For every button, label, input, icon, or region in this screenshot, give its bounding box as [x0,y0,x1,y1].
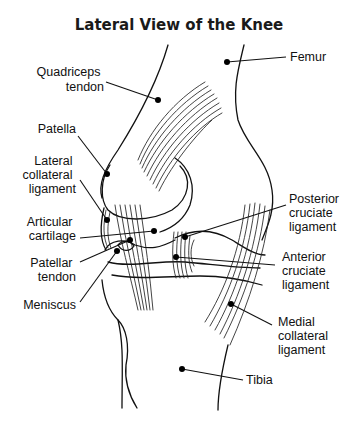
label-tibia: Tibia [246,373,273,387]
leader-tibia [179,366,243,380]
knee-diagram: Lateral View of the Knee [0,0,358,433]
label-lateral-collateral-ligament: Lateral collateral ligament [22,154,76,196]
label-anterior-cruciate-ligament: Anterior cruciate ligament [282,250,330,292]
label-meniscus: Meniscus [23,298,76,312]
leader-posterior-cruciate [182,205,286,240]
leader-anterior-cruciate [173,254,275,265]
label-quadriceps-tendon: Quadriceps tendon [37,65,104,94]
patella-outline [102,158,192,232]
label-posterior-cruciate-ligament: Posterior cruciate ligament [289,192,343,234]
label-patella: Patella [38,122,76,136]
patellar-tendon-fibers [115,205,153,310]
medial-collateral-fibers [205,203,270,345]
diagram-title: Lateral View of the Knee [75,16,284,34]
label-medial-collateral-ligament: Medial collateral ligament [278,315,332,357]
label-femur: Femur [290,50,326,64]
tibia-outline [102,280,228,410]
leader-medial-collateral [228,301,272,325]
leader-articular-cartilage [80,228,157,238]
label-patellar-tendon: Patellar tendon [30,256,76,284]
leader-lateral-collateral [80,180,110,223]
label-articular-cartilage: Articular cartilage [27,215,76,243]
quadriceps-tendon-fibers [138,82,222,191]
leader-patella [78,136,110,177]
leader-femur [224,57,286,65]
